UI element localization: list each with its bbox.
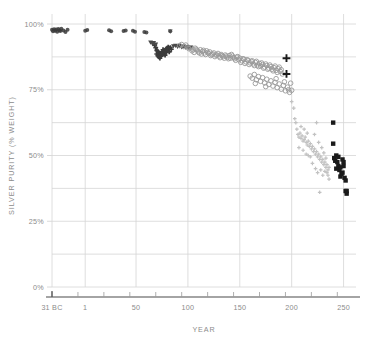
series-main-open-circles xyxy=(177,42,294,94)
data-point xyxy=(297,146,301,150)
data-point xyxy=(319,168,323,172)
chart-canvas: 0%25%50%75%100%31 BC150100150200250YEARS… xyxy=(0,0,369,343)
data-point xyxy=(305,131,309,135)
data-point xyxy=(314,167,318,171)
x-axis-title: YEAR xyxy=(192,325,215,334)
data-point xyxy=(324,156,328,160)
data-point xyxy=(313,133,317,137)
data-point xyxy=(327,177,331,181)
data-point xyxy=(283,70,291,78)
x-axis-tick-label: 250 xyxy=(337,303,350,312)
data-layer xyxy=(50,27,349,196)
x-axis-tick-label: 50 xyxy=(132,303,141,312)
x-axis-tick-label: 200 xyxy=(285,303,298,312)
data-point xyxy=(85,28,89,32)
x-axis-tick-label: 1 xyxy=(83,303,87,312)
data-point xyxy=(301,148,305,152)
data-point xyxy=(283,54,291,62)
data-point xyxy=(318,191,322,195)
data-point xyxy=(322,151,326,155)
series-severan-plus-black xyxy=(283,54,291,78)
data-point xyxy=(109,29,113,33)
data-point xyxy=(288,81,293,86)
data-point xyxy=(335,160,339,164)
x-axis-tick-label: 100 xyxy=(182,303,195,312)
series-late-black-squares xyxy=(331,120,349,195)
data-point xyxy=(315,121,319,125)
data-point xyxy=(316,171,320,175)
data-point xyxy=(340,170,344,174)
y-axis-tick-label: 100% xyxy=(25,20,45,29)
data-point xyxy=(317,141,321,145)
data-point xyxy=(302,127,306,131)
data-point xyxy=(343,178,347,182)
y-axis-tick-label: 0% xyxy=(33,283,44,292)
y-axis-title: SILVER PURITY (% WEIGHT) xyxy=(7,96,16,215)
silver-purity-scatter-chart: 0%25%50%75%100%31 BC150100150200250YEARS… xyxy=(0,0,369,343)
y-axis-tick-label: 50% xyxy=(29,151,44,160)
axis-layer xyxy=(46,24,360,297)
data-point xyxy=(338,174,342,178)
data-point xyxy=(299,125,303,129)
data-point xyxy=(294,121,298,125)
data-point xyxy=(341,164,345,168)
data-point xyxy=(341,160,345,164)
data-point xyxy=(293,117,297,121)
data-point xyxy=(334,166,338,170)
data-point xyxy=(133,30,137,34)
data-point xyxy=(321,173,325,177)
data-point xyxy=(292,106,296,110)
data-point xyxy=(320,146,324,150)
x-axis-tick-label: 31 BC xyxy=(41,303,62,312)
data-point xyxy=(311,162,315,166)
data-point xyxy=(66,28,70,32)
series-early-denarius-dark xyxy=(50,27,172,35)
data-point xyxy=(290,100,294,104)
data-point xyxy=(144,30,148,34)
data-point xyxy=(344,189,348,193)
data-point xyxy=(336,155,340,159)
data-point xyxy=(124,29,128,33)
data-point xyxy=(295,127,299,131)
data-point xyxy=(331,120,335,124)
x-axis-tick-label: 150 xyxy=(233,303,246,312)
data-point xyxy=(331,141,335,145)
y-axis-tick-label: 75% xyxy=(29,85,44,94)
series-third-century-light xyxy=(290,100,331,194)
y-axis-tick-label: 25% xyxy=(29,217,44,226)
